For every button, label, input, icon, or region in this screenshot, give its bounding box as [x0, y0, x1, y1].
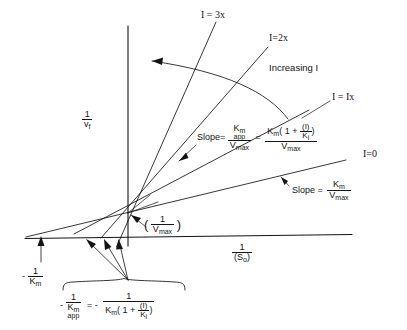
increasing-arrow-head: [152, 58, 163, 66]
y-intercept-den-sub: max: [159, 228, 172, 235]
slope-app-exp-den-sub: max: [287, 145, 300, 152]
line-label-I-2x: I=2x: [269, 33, 288, 44]
x-axis-label-den: (S: [234, 252, 243, 262]
x-axis-label: 1 (So): [232, 243, 252, 263]
y-axis-label-den-sub: f: [89, 123, 91, 130]
arrow-km-head: [38, 236, 45, 246]
slope-zero-num-sub: m: [339, 183, 345, 190]
slope-app-num-K-sub2: app: [233, 133, 245, 140]
slope-zero-annotation: Slope = Km Vmax: [292, 180, 351, 201]
x-intercept-app-fraction: 1 Km app: [66, 293, 82, 320]
x-intercept-app-minus: -: [60, 301, 63, 310]
x-axis: [25, 235, 352, 239]
increasing-i-label: Increasing I: [269, 63, 318, 73]
slope-app-equals: =: [256, 133, 261, 142]
slope-app-annotation: Slope= Km app Vmax = Km( 1 + (I) Ki ) Vm…: [197, 123, 317, 152]
slope-app-num-K-sub: m: [240, 126, 246, 133]
slope-app-fraction: Km app Vmax: [228, 124, 251, 152]
arrow-app-2-head: [104, 239, 112, 250]
slope-app-exp-close: ): [312, 126, 315, 136]
y-intercept-close-paren: ): [177, 217, 181, 232]
y-intercept-open-paren: (: [144, 217, 148, 232]
y-intercept-label: ( 1 Vmax ): [144, 215, 181, 235]
x-intercept-km-minus: -: [22, 272, 25, 281]
x-intercept-expanded-label: - 1 Km app = - 1 Km( 1 + (I) Ki ): [60, 292, 154, 320]
slope-zero-den-sub: max: [335, 194, 348, 201]
line-label-I-1x: I = Ix: [332, 92, 354, 103]
slope-zero-word: Slope =: [292, 186, 323, 195]
slope-zero-fraction: Km Vmax: [327, 180, 350, 201]
x-intercept-exp-inner-den-sub: i: [145, 313, 147, 320]
leader-I-1x: [302, 101, 330, 118]
y-axis-label: 1 vf: [82, 110, 92, 130]
slope-app-exp-inner-den-sub: i: [308, 134, 310, 141]
converge-tick-b: [128, 202, 158, 213]
x-intercept-exp-close: ): [149, 305, 152, 315]
x-intercept-exp-open: ( 1 +: [117, 305, 135, 315]
x-intercept-app-den-sub: m: [74, 305, 80, 312]
x-intercept-km-den-sub: m: [36, 280, 42, 287]
slope-app-den-sub: max: [236, 144, 249, 151]
slope-app-exp-open: ( 1 +: [279, 126, 297, 136]
line-label-I-3x: I = 3x: [201, 10, 225, 21]
x-intercept-app-den-sub2: app: [68, 312, 80, 319]
x-intercept-equals-minus: = -: [87, 301, 98, 310]
x-intercept-expanded-fraction: 1 Km( 1 + (I) Ki ): [103, 292, 154, 320]
x-axis-label-den-close: ): [247, 252, 250, 262]
y-intercept-fraction: 1 Vmax: [151, 215, 174, 235]
slope-app-expanded-fraction: Km( 1 + (I) Ki ) Vmax: [265, 123, 316, 152]
line-label-I-0: I=0: [363, 149, 377, 160]
lineweaver-burk-figure: [0, 0, 407, 330]
x-intercept-km-fraction: 1 Km: [28, 267, 44, 287]
increasing-arrow-curve: [152, 61, 288, 119]
x-intercept-km-label: - 1 Km: [22, 267, 43, 287]
brace-x-intercepts: [63, 279, 185, 291]
slope-app-word: Slope=: [197, 133, 225, 142]
